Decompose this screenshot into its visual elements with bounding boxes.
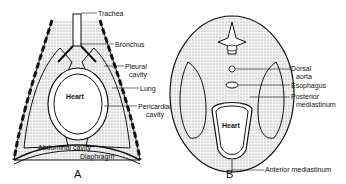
label-abdominal-cavity: Abdominal cavity (38, 144, 91, 151)
label-posterior-mediastinum-line1: Posterior (291, 93, 319, 100)
caption-b: B (226, 168, 233, 180)
label-dorsal-aorta-line2: aorta (296, 73, 312, 80)
caption-a: A (74, 168, 81, 180)
label-pericardial-cavity-line2: cavity (146, 111, 164, 118)
panel-a-drawing (14, 13, 140, 164)
label-esophagus: Esophagus (291, 82, 326, 89)
label-trachea: Trachea (98, 10, 123, 17)
anatomy-diagram (0, 0, 346, 184)
label-diaphragm: Diaphragm (80, 153, 114, 160)
label-posterior-mediastinum-line2: mediastinum (296, 101, 336, 108)
label-dorsal-aorta-line1: Dorsal (291, 65, 311, 72)
label-pleural-cavity-line1: Pleural (125, 63, 147, 70)
label-heart-b: Heart (222, 122, 240, 129)
panel-b-drawing (170, 16, 294, 172)
label-bronchus: Bronchus (115, 41, 145, 48)
label-heart-a: Heart (66, 93, 84, 100)
label-pericardial-cavity-line1: Pericardial (138, 103, 171, 110)
label-pleural-cavity-line2: cavity (129, 71, 147, 78)
label-anterior-mediastinum: Anterior mediastinum (265, 166, 331, 173)
label-lung: Lung (140, 85, 156, 92)
